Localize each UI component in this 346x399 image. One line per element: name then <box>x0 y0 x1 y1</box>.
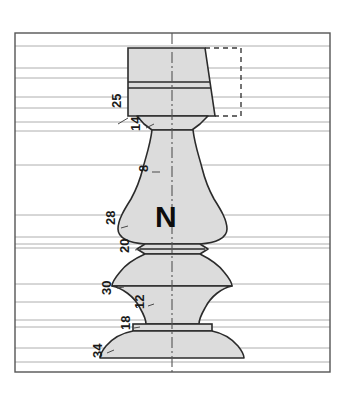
ref-numeral-14: 14 <box>128 116 143 131</box>
ref-numeral-34: 34 <box>90 343 105 358</box>
ref-numeral-20: 20 <box>117 239 132 253</box>
ref-numeral-30: 30 <box>99 281 114 295</box>
ref-numeral-18: 18 <box>118 316 133 330</box>
part-label-group: N <box>155 200 177 233</box>
ref-numeral-25: 25 <box>109 94 124 108</box>
patent-figure-container: 25 14 8 28 20 30 12 18 34 N <box>0 0 346 399</box>
ref-numeral-28: 28 <box>103 211 118 225</box>
ref-numeral-8: 8 <box>136 165 151 172</box>
ref-numeral-12: 12 <box>132 295 147 309</box>
part-label-main: N <box>155 200 177 233</box>
technical-drawing-svg: 25 14 8 28 20 30 12 18 34 N <box>0 0 346 399</box>
